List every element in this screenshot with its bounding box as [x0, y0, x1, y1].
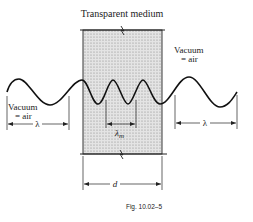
thickness-label: d: [113, 179, 118, 189]
right-wavelength-label: λ: [203, 118, 208, 128]
left-air-label: = air: [15, 111, 32, 121]
right-air-label: = air: [181, 54, 198, 64]
diagram-canvas: Transparent medium Vacuum = air Vacuum =…: [0, 0, 253, 222]
figure-title: Transparent medium: [81, 8, 164, 19]
thickness-dimension: [83, 156, 162, 190]
figure-caption: Fig. 10.02–5: [126, 203, 163, 211]
left-wavelength-label: λ: [35, 119, 40, 129]
